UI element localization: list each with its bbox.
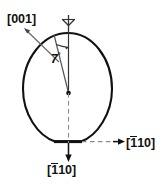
label-001-direction: [001] (7, 13, 36, 26)
label-inplane-bracket-close: ] (151, 136, 155, 150)
label-001-indices: 001 (11, 12, 32, 26)
label-inplane-direction: [110] (126, 137, 155, 150)
tilt-angle-unit: ° (58, 52, 61, 59)
crystal-orientation-figure: [001] 7° [110] [110] (0, 0, 166, 191)
right-direction-arrowhead-icon (118, 138, 125, 144)
label-tilt-angle: 7° (51, 52, 61, 65)
label-flat-indices-rest: 10 (58, 163, 72, 177)
down-direction-arrowhead-icon (65, 155, 71, 163)
tilt-angle-value: 7 (51, 52, 58, 66)
label-inplane-index-bar: 1 (130, 137, 137, 150)
label-flat-index-bar: 1 (51, 164, 58, 177)
label-flat-bracket-close: ] (72, 163, 76, 177)
figure-canvas (0, 0, 166, 191)
label-inplane-indices-rest: 10 (137, 136, 151, 150)
label-flat-direction: [110] (47, 164, 76, 177)
label-001-bracket-close: ] (32, 12, 36, 26)
